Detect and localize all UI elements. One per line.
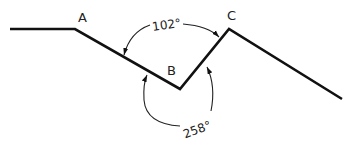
point-c-label: C bbox=[227, 8, 236, 23]
angle-diagram: 102° 258° A B C bbox=[0, 0, 352, 144]
polyline-path bbox=[10, 29, 342, 99]
interior-angle-arc-right bbox=[183, 24, 219, 37]
point-a-label: A bbox=[78, 10, 87, 25]
exterior-angle-arc-right bbox=[207, 67, 213, 111]
exterior-angle-arc-left bbox=[144, 75, 180, 126]
interior-angle-arc-left bbox=[124, 25, 150, 55]
interior-angle-label: 102° bbox=[151, 16, 182, 34]
exterior-angle-label: 258° bbox=[181, 118, 213, 141]
point-b-label: B bbox=[167, 63, 176, 78]
